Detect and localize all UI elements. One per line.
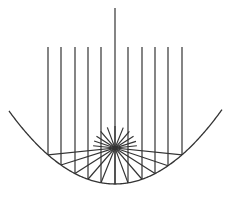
reflected-ray xyxy=(88,131,129,179)
reflected-ray xyxy=(61,141,136,165)
focal-point xyxy=(113,146,117,150)
reflected-rays xyxy=(48,126,182,184)
reflected-ray xyxy=(94,141,168,166)
parabolic-reflector-diagram xyxy=(0,0,239,198)
